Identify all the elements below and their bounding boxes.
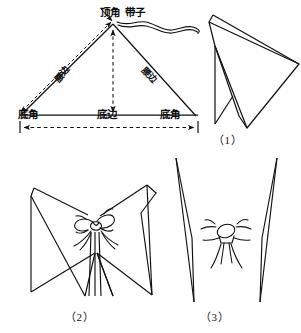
- triangle-outline: [20, 24, 198, 116]
- label-base-edge: 底边: [97, 106, 117, 121]
- label-apex-angle: 顶角: [100, 4, 120, 19]
- step-3-shape: [176, 158, 277, 302]
- ribbon-curve: [117, 22, 199, 34]
- label-right-base-angle: 底角: [160, 106, 180, 121]
- base-span-measure: [20, 121, 198, 133]
- figure-sheet: [0, 0, 301, 333]
- step-2-shape: [31, 185, 156, 296]
- label-ribbon: 带子: [125, 4, 145, 19]
- caption-step-2: （2）: [65, 308, 94, 324]
- step-1-shape: [209, 15, 299, 128]
- caption-step-3: （3）: [200, 308, 229, 324]
- label-left-base-angle: 底角: [18, 106, 38, 121]
- caption-step-1: （1）: [213, 131, 242, 147]
